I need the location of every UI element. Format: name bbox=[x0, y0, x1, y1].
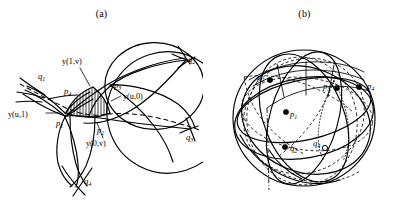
label-p3: p3 bbox=[322, 81, 330, 92]
panel-a-caption: (a) bbox=[0, 8, 203, 19]
panel-a-diagram: p1 p2 p3 p4 q1 q2 q3 q4 y(1,v) y(u,0) y(… bbox=[0, 0, 203, 204]
label-y-u-1: y(u,1) bbox=[8, 110, 28, 119]
point-q2 bbox=[282, 144, 287, 149]
leader-y-1-v bbox=[80, 68, 90, 86]
panel-a: (a) bbox=[0, 0, 203, 204]
label-q4: q4 bbox=[84, 176, 91, 187]
panel-b: (b) bbox=[203, 0, 406, 204]
label-q1: q1 bbox=[38, 71, 45, 82]
figure-root: (a) bbox=[0, 0, 406, 204]
hatched-patch bbox=[66, 70, 110, 130]
label-y-0-v: y(0,v) bbox=[86, 139, 106, 148]
label-y-u-0: y(u,0) bbox=[123, 92, 143, 101]
label-p3: p3 bbox=[113, 80, 121, 91]
point-p3 bbox=[334, 85, 339, 90]
label-p1: p1 bbox=[289, 109, 297, 120]
label-q4: q4 bbox=[313, 138, 320, 149]
surface-grid bbox=[249, 62, 369, 108]
label-p4: p4 bbox=[366, 81, 374, 92]
point-p2 bbox=[267, 77, 272, 82]
panel-b-caption: (b) bbox=[203, 8, 406, 19]
panel-b-diagram: p2 p1 p3 p4 q2 q4 bbox=[203, 0, 406, 204]
label-q2: q2 bbox=[290, 143, 297, 154]
point-q4 bbox=[322, 145, 327, 150]
point-p1 bbox=[283, 109, 288, 114]
point-p4 bbox=[356, 84, 361, 89]
label-p1: p1 bbox=[55, 118, 63, 129]
label-y-1-v: y(1,v) bbox=[62, 57, 82, 66]
circle-family-a bbox=[16, 43, 203, 196]
label-q2: q2 bbox=[188, 54, 195, 65]
leader-y-u-0 bbox=[111, 96, 121, 101]
label-p2: p2 bbox=[96, 125, 104, 136]
label-p4: p4 bbox=[63, 86, 71, 97]
